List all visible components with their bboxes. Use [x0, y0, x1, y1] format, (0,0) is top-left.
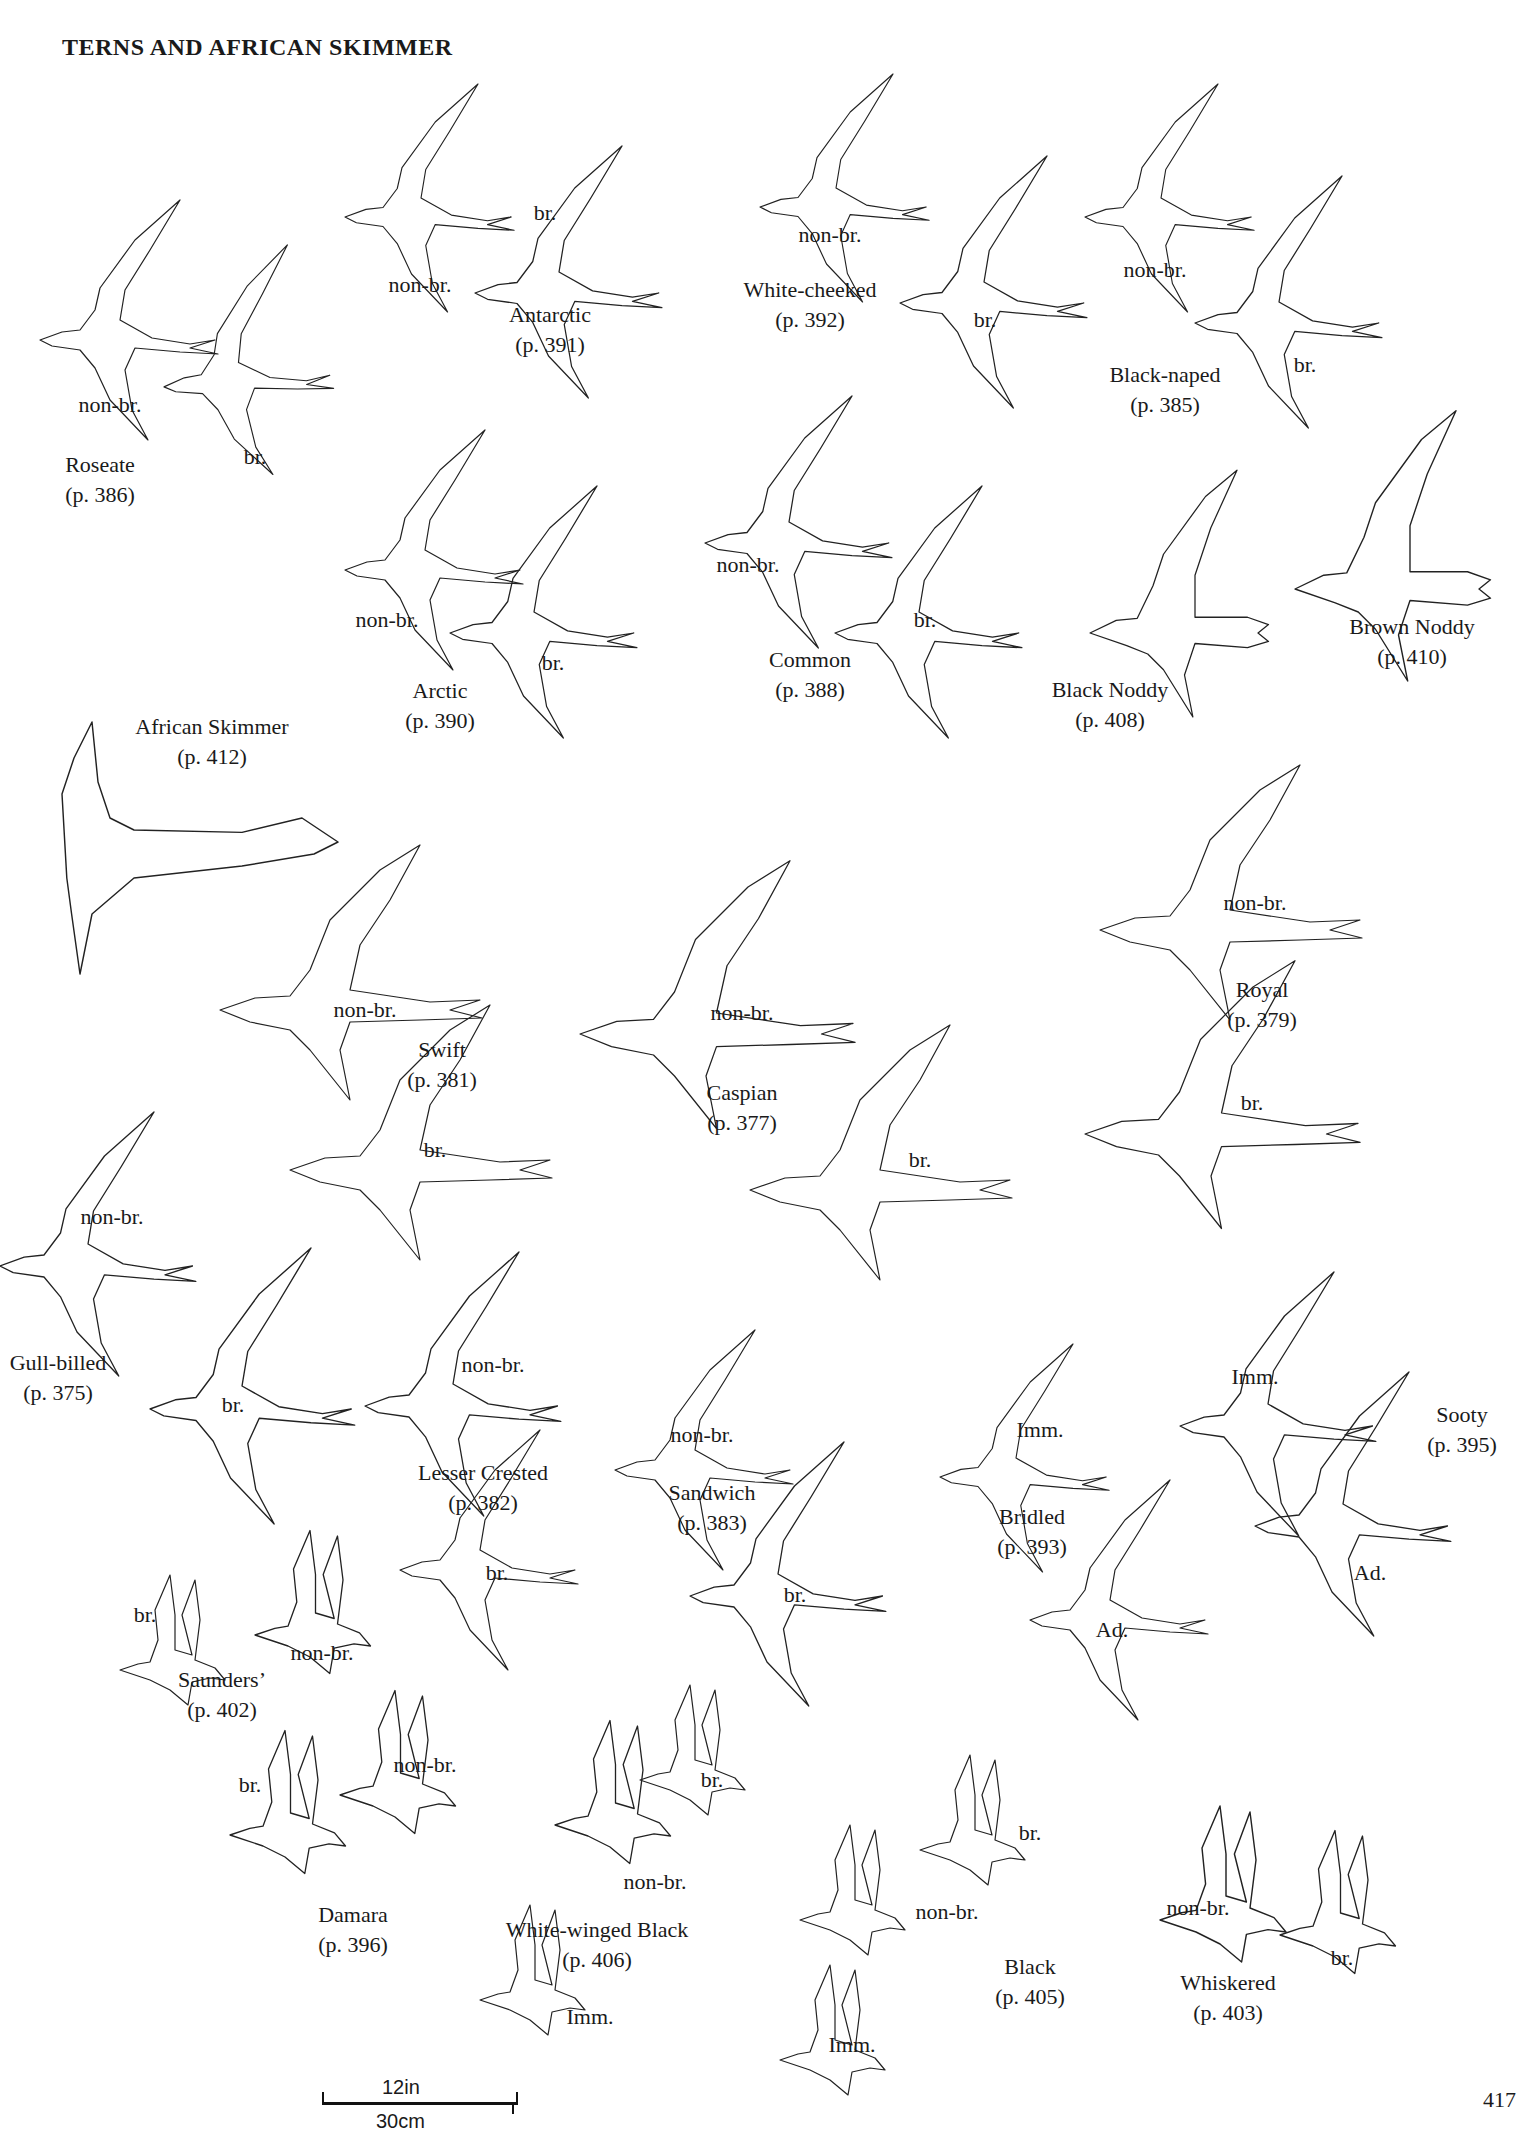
species-label-swift: Swift(p. 381): [407, 1035, 477, 1094]
species-label-white-cheeked: White-cheeked(p. 392): [743, 275, 876, 334]
species-page-ref: (p. 395): [1427, 1430, 1497, 1460]
species-label-brown-noddy: Brown Noddy(p. 410): [1349, 612, 1474, 671]
plumage-label: Imm.: [828, 2030, 875, 2060]
scale-bar-inches: 12in: [382, 2076, 420, 2099]
species-label-white-winged-black: White-winged Black(p. 406): [506, 1915, 689, 1974]
species-page-ref: (p. 386): [65, 480, 135, 510]
plumage-label: br.: [701, 1765, 724, 1795]
plumage-label: non-br.: [671, 1420, 734, 1450]
plumage-label: non-br.: [394, 1750, 457, 1780]
plumage-label: br.: [909, 1145, 932, 1175]
species-name: White-cheeked: [743, 275, 876, 305]
species-label-arctic: Arctic(p. 390): [405, 676, 475, 735]
species-page-ref: (p. 382): [418, 1488, 548, 1518]
plumage-label: br.: [784, 1580, 807, 1610]
plumage-label: non-br.: [81, 1202, 144, 1232]
plumage-label: br.: [914, 605, 937, 635]
plumage-label: br.: [1241, 1088, 1264, 1118]
species-label-sandwich: Sandwich(p. 383): [669, 1478, 756, 1537]
species-name: Arctic: [405, 676, 475, 706]
species-page-ref: (p. 383): [669, 1508, 756, 1538]
species-label-african-skimmer: African Skimmer(p. 412): [135, 712, 288, 771]
species-name: Lesser Crested: [418, 1458, 548, 1488]
species-page-ref: (p. 377): [707, 1108, 778, 1138]
species-name: Brown Noddy: [1349, 612, 1474, 642]
plumage-label: Ad.: [1096, 1615, 1128, 1645]
species-label-saunders: Saunders’(p. 402): [178, 1665, 266, 1724]
plumage-label: non-br.: [1124, 255, 1187, 285]
species-name: Saunders’: [178, 1665, 266, 1695]
species-label-antarctic: Antarctic(p. 391): [509, 300, 591, 359]
page-number: 417: [1483, 2087, 1516, 2113]
species-name: Royal: [1227, 975, 1297, 1005]
species-name: White-winged Black: [506, 1915, 689, 1945]
plumage-label: non-br.: [717, 550, 780, 580]
species-name: Black Noddy: [1052, 675, 1169, 705]
species-label-bridled: Bridled(p. 393): [997, 1502, 1067, 1561]
species-name: Caspian: [707, 1078, 778, 1108]
species-page-ref: (p. 412): [135, 742, 288, 772]
scale-bar-line: [322, 2102, 518, 2105]
species-label-common: Common(p. 388): [769, 645, 851, 704]
plumage-label: br.: [542, 648, 565, 678]
plumage-label: br.: [486, 1558, 509, 1588]
scale-tick-cm: [512, 2104, 514, 2114]
species-page-ref: (p. 405): [995, 1982, 1065, 2012]
species-label-damara: Damara(p. 396): [318, 1900, 388, 1959]
species-name: Sooty: [1427, 1400, 1497, 1430]
plumage-label: non-br.: [291, 1638, 354, 1668]
species-name: Bridled: [997, 1502, 1067, 1532]
plumage-label: Imm.: [1231, 1362, 1278, 1392]
plumage-label: non-br.: [799, 220, 862, 250]
species-page-ref: (p. 388): [769, 675, 851, 705]
plumage-label: non-br.: [462, 1350, 525, 1380]
species-label-royal: Royal(p. 379): [1227, 975, 1297, 1034]
plumage-label: br.: [974, 305, 997, 335]
species-page-ref: (p. 406): [506, 1945, 689, 1975]
plumage-label: non-br.: [916, 1897, 979, 1927]
species-name: Sandwich: [669, 1478, 756, 1508]
species-label-black-naped: Black-naped(p. 385): [1109, 360, 1220, 419]
species-name: Black-naped: [1109, 360, 1220, 390]
plumage-label: br.: [1294, 350, 1317, 380]
species-name: Roseate: [65, 450, 135, 480]
species-name: Black: [995, 1952, 1065, 1982]
species-page-ref: (p. 392): [743, 305, 876, 335]
species-page-ref: (p. 381): [407, 1065, 477, 1095]
plumage-label: br.: [1019, 1818, 1042, 1848]
species-page-ref: (p. 408): [1052, 705, 1169, 735]
plumage-label: br.: [134, 1600, 157, 1630]
species-name: Gull-billed: [10, 1348, 107, 1378]
species-page-ref: (p. 393): [997, 1532, 1067, 1562]
plumage-label: non-br.: [1167, 1893, 1230, 1923]
species-label-black-noddy: Black Noddy(p. 408): [1052, 675, 1169, 734]
species-label-gull-billed: Gull-billed(p. 375): [10, 1348, 107, 1407]
plumage-label: br.: [244, 442, 267, 472]
scale-tick-right: [516, 2092, 518, 2104]
plumage-label: non-br.: [1224, 888, 1287, 918]
plumage-label: Imm.: [566, 2002, 613, 2032]
plumage-label: non-br.: [711, 998, 774, 1028]
species-name: Damara: [318, 1900, 388, 1930]
species-label-lesser-crested: Lesser Crested(p. 382): [418, 1458, 548, 1517]
species-page-ref: (p. 391): [509, 330, 591, 360]
species-page-ref: (p. 375): [10, 1378, 107, 1408]
species-name: Common: [769, 645, 851, 675]
species-page-ref: (p. 402): [178, 1695, 266, 1725]
species-page-ref: (p. 410): [1349, 642, 1474, 672]
species-page-ref: (p. 390): [405, 706, 475, 736]
species-page-ref: (p. 396): [318, 1930, 388, 1960]
plumage-label: br.: [1331, 1943, 1354, 1973]
plumage-label: Imm.: [1016, 1415, 1063, 1445]
species-label-whiskered: Whiskered(p. 403): [1180, 1968, 1275, 2027]
species-name: Swift: [407, 1035, 477, 1065]
species-label-caspian: Caspian(p. 377): [707, 1078, 778, 1137]
scale-bar-cm: 30cm: [376, 2110, 425, 2133]
plumage-label: non-br.: [356, 605, 419, 635]
species-page-ref: (p. 385): [1109, 390, 1220, 420]
plumage-label: br.: [239, 1770, 262, 1800]
plumage-label: non-br.: [389, 270, 452, 300]
species-page-ref: (p. 379): [1227, 1005, 1297, 1035]
species-name: African Skimmer: [135, 712, 288, 742]
species-label-sooty: Sooty(p. 395): [1427, 1400, 1497, 1459]
